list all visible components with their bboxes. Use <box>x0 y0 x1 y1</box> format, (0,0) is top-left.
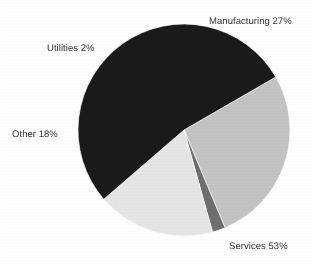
slice-label-utilities: Utilities 2% <box>47 43 95 54</box>
pie-chart: Manufacturing 27% Utilities 2% Other 18%… <box>0 0 312 264</box>
slice-label-services: Services 53% <box>229 241 288 252</box>
slice-label-manufacturing: Manufacturing 27% <box>209 16 292 27</box>
slice-label-other: Other 18% <box>12 129 58 140</box>
pie-slice-group <box>78 24 290 236</box>
